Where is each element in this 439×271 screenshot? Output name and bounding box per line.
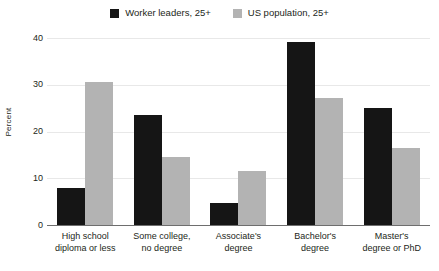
x-label-bachelors: Bachelor's degree — [277, 230, 354, 254]
x-label-line: no degree — [126, 242, 199, 254]
bar-worker-leaders-1[interactable] — [134, 115, 162, 225]
x-label-line: High school — [49, 230, 122, 242]
x-label-line: Some college, — [126, 230, 199, 242]
x-label-line: degree or PhD — [355, 242, 428, 254]
bar-worker-leaders-4[interactable] — [364, 108, 392, 225]
y-tick-30: 30 — [5, 80, 43, 89]
y-tick-10: 10 — [5, 174, 43, 183]
chart-legend: Worker leaders, 25+ US population, 25+ — [0, 5, 439, 21]
legend-swatch-series-1 — [233, 9, 242, 18]
bar-us-population-4[interactable] — [392, 148, 420, 225]
x-axis-labels: High school diploma or less Some college… — [47, 230, 430, 254]
y-axis: 40 30 20 10 0 Percent — [0, 0, 43, 271]
x-label-line: Associate's — [202, 230, 275, 242]
bar-worker-leaders-2[interactable] — [210, 203, 238, 225]
x-label-line: Master's — [355, 230, 428, 242]
x-label-line: Bachelor's — [279, 230, 352, 242]
bar-us-population-2[interactable] — [238, 171, 266, 225]
bar-groups — [47, 38, 430, 225]
bar-group-some-college — [124, 38, 201, 225]
y-tick-0: 0 — [5, 221, 43, 230]
legend-label-series-0: Worker leaders, 25+ — [125, 8, 211, 18]
legend-swatch-series-0 — [110, 9, 119, 18]
x-axis-line — [47, 225, 430, 226]
x-label-associates: Associate's degree — [200, 230, 277, 254]
x-label-line: diploma or less — [49, 242, 122, 254]
bar-worker-leaders-3[interactable] — [287, 42, 315, 225]
bar-us-population-3[interactable] — [315, 98, 343, 225]
legend-entry-worker-leaders[interactable]: Worker leaders, 25+ — [110, 8, 211, 18]
x-label-high-school: High school diploma or less — [47, 230, 124, 254]
bar-us-population-1[interactable] — [162, 157, 190, 225]
x-label-masters: Master's degree or PhD — [353, 230, 430, 254]
y-tick-40: 40 — [5, 34, 43, 43]
bar-worker-leaders-0[interactable] — [57, 188, 85, 225]
y-axis-title: Percent — [5, 94, 13, 150]
bar-group-high-school — [47, 38, 124, 225]
bar-chart: Worker leaders, 25+ US population, 25+ — [0, 0, 439, 271]
bar-group-bachelors — [277, 38, 354, 225]
legend-label-series-1: US population, 25+ — [248, 8, 329, 18]
x-label-line: degree — [279, 242, 352, 254]
bar-group-associates — [200, 38, 277, 225]
bar-group-masters — [353, 38, 430, 225]
x-label-line: degree — [202, 242, 275, 254]
legend-entry-us-population[interactable]: US population, 25+ — [233, 8, 329, 18]
x-label-some-college: Some college, no degree — [124, 230, 201, 254]
bar-us-population-0[interactable] — [85, 82, 113, 225]
